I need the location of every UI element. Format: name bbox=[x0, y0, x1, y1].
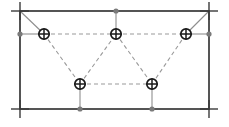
frame-rectangle bbox=[20, 11, 209, 109]
edge-support-dot-d4 bbox=[77, 106, 82, 111]
edge-support-dot-d3 bbox=[206, 31, 211, 36]
truss-node-n1 bbox=[39, 29, 49, 39]
truss-diagram-svg bbox=[0, 0, 229, 127]
edge-support-dots-layer bbox=[17, 8, 211, 111]
edge-support-dot-d5 bbox=[149, 106, 154, 111]
diagram-canvas bbox=[0, 0, 229, 127]
corner-cross-c3 bbox=[11, 100, 29, 118]
truss-node-n2 bbox=[111, 29, 121, 39]
truss-node-n4 bbox=[75, 79, 85, 89]
dashed-chord-n2-n5 bbox=[116, 34, 152, 84]
edge-support-dot-d1 bbox=[17, 31, 22, 36]
corner-cross-markers-layer bbox=[11, 2, 218, 118]
dashed-chords-layer bbox=[44, 34, 186, 84]
edge-support-dot-d2 bbox=[113, 8, 118, 13]
dashed-chord-n5-n3 bbox=[152, 34, 186, 84]
truss-node-n5 bbox=[147, 79, 157, 89]
truss-node-n3 bbox=[181, 29, 191, 39]
dashed-chord-n1-n4 bbox=[44, 34, 80, 84]
corner-cross-c4 bbox=[200, 100, 218, 118]
frame-rectangle-layer bbox=[20, 11, 209, 109]
dashed-chord-n4-n2 bbox=[80, 34, 116, 84]
connector-lines-layer bbox=[20, 11, 209, 109]
